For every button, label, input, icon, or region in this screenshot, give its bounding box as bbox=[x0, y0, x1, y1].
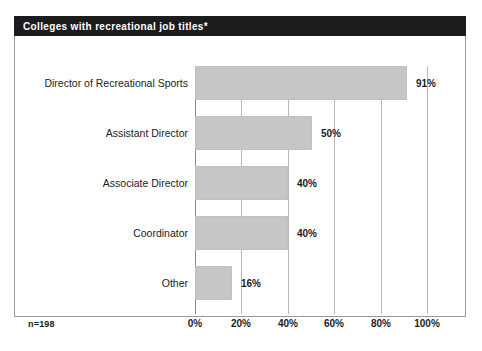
bar-value-label: 40% bbox=[297, 228, 317, 239]
plot-area: 91% 50% 40% 40% 16% bbox=[195, 66, 428, 314]
xtick-80: 80% bbox=[371, 318, 391, 329]
category-label-director-of-recreational-sports: Director of Recreational Sports bbox=[20, 66, 195, 100]
gridline-60 bbox=[334, 66, 335, 314]
bar-other bbox=[195, 266, 232, 300]
page-title: Colleges with recreational job titles* bbox=[14, 21, 208, 32]
xtick-60: 60% bbox=[324, 318, 344, 329]
bar-associate-director bbox=[195, 166, 288, 200]
chart-title-bar: Colleges with recreational job titles* bbox=[14, 16, 466, 36]
category-label-coordinator: Coordinator bbox=[20, 216, 195, 250]
bar-row: 16% bbox=[195, 266, 261, 300]
sample-size-note: n=198 bbox=[28, 319, 55, 329]
xtick-0: 0% bbox=[188, 318, 202, 329]
bar-row: 40% bbox=[195, 216, 317, 250]
bar-value-label: 50% bbox=[321, 128, 341, 139]
category-label-other: Other bbox=[20, 266, 195, 300]
bar-coordinator bbox=[195, 216, 288, 250]
gridline-80 bbox=[381, 66, 382, 314]
chart-figure: Colleges with recreational job titles* D… bbox=[14, 16, 466, 317]
bar-row: 40% bbox=[195, 166, 317, 200]
bar-row: 50% bbox=[195, 116, 341, 150]
gridline-100 bbox=[427, 66, 428, 314]
xtick-20: 20% bbox=[231, 318, 251, 329]
bar-row: 91% bbox=[195, 66, 436, 100]
bar-assistant-director bbox=[195, 116, 312, 150]
xtick-40: 40% bbox=[278, 318, 298, 329]
bar-value-label: 91% bbox=[416, 78, 436, 89]
bar-value-label: 16% bbox=[241, 278, 261, 289]
plot-wrapper: Director of Recreational Sports Assistan… bbox=[15, 37, 465, 316]
x-axis-tick-labels: 0% 20% 40% 60% 80% 100% bbox=[195, 318, 428, 334]
category-axis-labels: Director of Recreational Sports Assistan… bbox=[15, 66, 195, 314]
xtick-100: 100% bbox=[414, 318, 440, 329]
bar-director-of-recreational-sports bbox=[195, 66, 407, 100]
bar-value-label: 40% bbox=[297, 178, 317, 189]
category-label-associate-director: Associate Director bbox=[20, 166, 195, 200]
category-label-assistant-director: Assistant Director bbox=[20, 116, 195, 150]
